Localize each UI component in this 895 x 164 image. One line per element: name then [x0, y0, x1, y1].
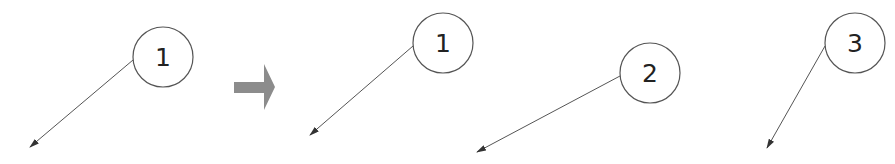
leader-line: [767, 46, 825, 148]
balloon-after-1: 1: [310, 13, 473, 135]
diagram-canvas: 1 1 2 3: [0, 0, 895, 164]
transition-arrow-icon: [234, 64, 275, 110]
balloon-label: 1: [155, 43, 171, 72]
leader-line: [477, 76, 620, 152]
leader-line: [30, 60, 133, 147]
leader-line: [310, 46, 413, 135]
balloon-label: 2: [642, 59, 658, 88]
balloon-after-3: 3: [767, 13, 885, 148]
balloon-label: 3: [847, 29, 863, 58]
balloon-after-2: 2: [477, 43, 680, 152]
balloon-label: 1: [435, 29, 451, 58]
balloon-before-1: 1: [30, 27, 193, 147]
